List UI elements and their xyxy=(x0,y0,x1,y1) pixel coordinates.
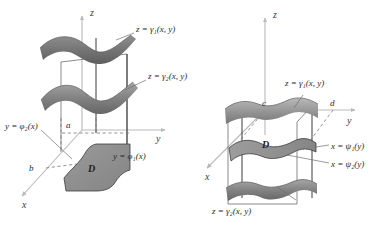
right-tick-d: d xyxy=(330,98,335,108)
left-label-region-D: D xyxy=(87,163,95,174)
right-label-region-D: D xyxy=(261,139,269,150)
left-label-phi2: y = φ₂(x) xyxy=(4,121,38,131)
left-label-gamma2: z = γ₂(x, y) xyxy=(147,71,187,81)
right-label-psi1: x = ψ₁(y) xyxy=(330,141,364,151)
left-label-gamma1: z = γ₁(x, y) xyxy=(135,24,175,34)
right-label-gamma2: z = γ₂(x, y) xyxy=(211,206,251,216)
right-label-psi2: x = ψ₂(y) xyxy=(330,159,364,169)
left-tick-a: a xyxy=(66,120,71,130)
calculus-solid-region-figure: z = γ₁(x, y) z = γ₂(x, y) y = φ₂(x) y = … xyxy=(0,0,384,230)
left-axis-label-x: x xyxy=(21,199,27,210)
figure-background xyxy=(0,0,384,230)
left-label-phi1: y = φ₁(x) xyxy=(112,151,146,161)
left-axis-label-z: z xyxy=(89,7,94,18)
right-tick-c: c xyxy=(262,98,266,108)
left-axis-label-y: y xyxy=(155,133,161,144)
right-label-gamma1: z = γ₁(x, y) xyxy=(284,78,324,88)
right-axis-label-x: x xyxy=(204,171,210,182)
left-tick-b: b xyxy=(29,163,34,173)
right-axis-label-z: z xyxy=(272,9,277,20)
right-axis-label-y: y xyxy=(346,115,352,126)
